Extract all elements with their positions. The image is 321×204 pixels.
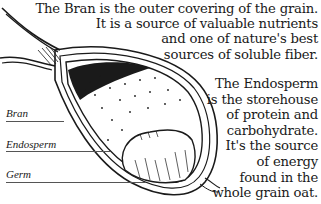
endosperm-description-line: It's the source: [207, 138, 318, 154]
bran-description-line: The Bran is the outer covering of the gr…: [35, 1, 318, 16]
bran-description-line: and one of nature's best: [35, 31, 318, 46]
endosperm-description-line: is the storehouse: [207, 92, 318, 108]
bran-description-line: It is a source of valuable nutrients: [35, 16, 318, 31]
endosperm-description-line: found in the: [207, 170, 318, 186]
label-germ-leader-line: [6, 182, 146, 183]
label-bran-leader-line: [6, 121, 64, 122]
endosperm-description-line: The Endosperm: [207, 76, 318, 92]
label-endosperm: Endosperm: [6, 138, 56, 150]
endosperm-description-line: carbohydrate.: [207, 123, 318, 139]
bran-description: The Bran is the outer covering of the gr…: [35, 1, 318, 62]
endosperm-description-line: of energy: [207, 154, 318, 170]
endosperm-description-line: of protein and: [207, 107, 318, 123]
label-endosperm-leader-line: [6, 151, 110, 152]
endosperm-description: The Endosperm is the storehouse of prote…: [207, 76, 318, 201]
endosperm-description-line: whole grain oat.: [207, 185, 318, 201]
label-bran: Bran: [6, 107, 28, 119]
label-germ: Germ: [6, 168, 31, 180]
bran-description-line: sources of soluble fiber.: [35, 47, 318, 62]
